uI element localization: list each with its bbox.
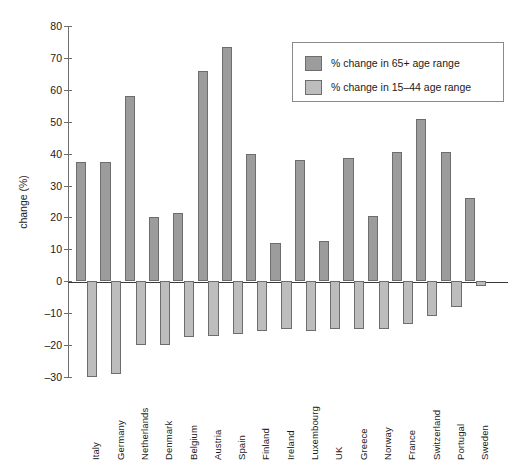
bar-positive bbox=[368, 216, 378, 281]
bar-negative bbox=[87, 281, 97, 377]
y-tick-label: 0 bbox=[28, 276, 62, 286]
bar-negative bbox=[160, 281, 170, 345]
bar-positive bbox=[416, 119, 426, 282]
y-tick-label: 10 bbox=[28, 244, 62, 254]
bar-negative bbox=[403, 281, 413, 324]
y-tick-label: 80 bbox=[28, 21, 62, 31]
x-axis-label: Spain bbox=[236, 435, 247, 460]
x-axis-label: Portugal bbox=[455, 424, 466, 460]
x-axis-label: Norway bbox=[382, 427, 393, 460]
x-axis-label: Finland bbox=[260, 428, 271, 460]
bar-positive bbox=[125, 96, 135, 281]
x-axis-label: Denmark bbox=[163, 421, 174, 460]
x-axis-label: Luxembourg bbox=[309, 406, 320, 460]
bar-positive bbox=[149, 217, 159, 281]
bar-negative bbox=[136, 281, 146, 345]
bar-positive bbox=[246, 154, 256, 282]
bar-positive bbox=[465, 198, 475, 281]
bar-negative bbox=[379, 281, 389, 329]
bar-negative bbox=[281, 281, 291, 329]
bar-positive bbox=[76, 162, 86, 282]
x-axis-label: Austria bbox=[212, 430, 223, 460]
bar-positive bbox=[392, 152, 402, 281]
legend-label: % change in 65+ age range bbox=[331, 57, 460, 69]
bar-negative bbox=[476, 281, 486, 286]
bar-negative bbox=[111, 281, 121, 374]
y-tick-label: 20 bbox=[28, 212, 62, 222]
legend-swatch-neg bbox=[305, 80, 322, 95]
bar-negative bbox=[427, 281, 437, 316]
bar-positive bbox=[343, 158, 353, 281]
y-tick-label: 60 bbox=[28, 85, 62, 95]
y-tick-label: –20 bbox=[28, 340, 62, 350]
x-axis-label: Greece bbox=[358, 428, 369, 460]
y-tick-label: –10 bbox=[28, 308, 62, 318]
bar-negative bbox=[306, 281, 316, 330]
legend-item: % change in 65+ age range bbox=[305, 54, 460, 72]
y-tick-label: 50 bbox=[28, 117, 62, 127]
y-tick-label: 40 bbox=[28, 149, 62, 159]
bar-positive bbox=[295, 160, 305, 281]
legend-swatch-pos bbox=[305, 56, 322, 71]
x-axis-label: Germany bbox=[115, 420, 126, 460]
bar-positive bbox=[198, 71, 208, 282]
x-axis-label: Ireland bbox=[285, 430, 296, 460]
bar-negative bbox=[233, 281, 243, 334]
x-axis-label: France bbox=[406, 430, 417, 460]
y-tick-label: –30 bbox=[28, 372, 62, 382]
y-tick-label: 30 bbox=[28, 181, 62, 191]
chart-legend: % change in 65+ age range% change in 15–… bbox=[292, 42, 504, 102]
bar-negative bbox=[257, 281, 267, 330]
bar-negative bbox=[330, 281, 340, 329]
x-axis-label: Italy bbox=[90, 442, 101, 460]
x-axis-label: Switzerland bbox=[431, 410, 442, 460]
bar-positive bbox=[100, 162, 110, 282]
bar-positive bbox=[270, 243, 280, 281]
bar-positive bbox=[319, 241, 329, 281]
x-axis-label: Sweden bbox=[479, 425, 490, 460]
y-axis-title: change (%) bbox=[17, 157, 29, 247]
bar-positive bbox=[222, 47, 232, 282]
legend-item: % change in 15–44 age range bbox=[305, 78, 471, 96]
x-axis-label: UK bbox=[333, 447, 344, 460]
bar-negative bbox=[184, 281, 194, 337]
bar-negative bbox=[354, 281, 364, 329]
bar-negative bbox=[208, 281, 218, 335]
y-tick-label: 70 bbox=[28, 53, 62, 63]
bar-chart: 80706050403020100–10–20–30 change (%) It… bbox=[0, 0, 530, 466]
legend-label: % change in 15–44 age range bbox=[331, 81, 471, 93]
x-axis-label: Netherlands bbox=[139, 408, 150, 460]
bar-negative bbox=[451, 281, 461, 307]
bar-positive bbox=[441, 152, 451, 281]
y-tick bbox=[64, 377, 72, 378]
x-axis-label: Belgium bbox=[188, 425, 199, 460]
bar-positive bbox=[173, 213, 183, 282]
